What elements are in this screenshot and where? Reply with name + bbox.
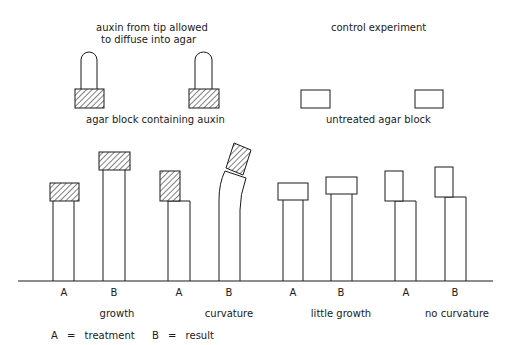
legend-b-key: B (152, 330, 159, 341)
plant-7 (385, 171, 416, 281)
plant-7-letter: A (403, 287, 410, 299)
auxin-agar-block (99, 152, 130, 170)
stem (331, 194, 352, 281)
auxin-agar-block-1 (75, 89, 104, 108)
plant-1-letter: A (61, 287, 68, 299)
auxin-agar-block (160, 171, 180, 201)
stem (445, 197, 466, 281)
auxin-agar-block-2 (189, 89, 219, 108)
untreated-agar-block (385, 171, 403, 201)
plant-3-letter: A (176, 287, 183, 299)
legend-b-value: result (186, 330, 214, 341)
stem (395, 201, 416, 281)
untreated-agar-block (326, 177, 357, 194)
plant-1 (50, 183, 79, 281)
plant-8-letter: B (452, 287, 459, 299)
plant-8 (435, 167, 466, 281)
plant-2-letter: B (111, 287, 118, 299)
tilted-auxin-agar-block (226, 143, 251, 175)
stem (103, 170, 125, 281)
plant-3 (160, 171, 190, 281)
plant-5 (278, 183, 308, 281)
untreated-agar-block (278, 183, 308, 200)
untreated-agar-block-2 (415, 90, 443, 108)
auxin-caption-line1: auxin from tip allowed (96, 22, 208, 34)
plant-4-letter: B (226, 287, 233, 299)
auxin-agar-block (50, 183, 79, 201)
stem (53, 201, 74, 281)
tip-on-agar-2 (189, 52, 219, 108)
stem (168, 201, 190, 281)
untreated-agar-block-1 (301, 90, 330, 108)
untreated-agar-block (435, 167, 453, 197)
plant-4 (219, 143, 251, 281)
coleoptile-tip-2 (195, 52, 212, 89)
agar-with-auxin-label: agar block containing auxin (86, 114, 225, 126)
legend: A = treatment B = result (51, 330, 214, 342)
stem (283, 200, 303, 281)
plant-6 (326, 177, 357, 281)
legend-b-eq: = (168, 330, 176, 341)
legend-a-key: A (51, 330, 58, 341)
auxin-experiment-diagram (0, 0, 510, 345)
auxin-caption-line2: to diffuse into agar (101, 34, 196, 46)
plant-2 (99, 152, 130, 281)
legend-a-value: treatment (85, 330, 135, 341)
untreated-agar-label: untreated agar block (326, 114, 431, 126)
result-little-growth: little growth (311, 308, 371, 320)
coleoptile-tip-1 (81, 52, 97, 89)
tip-on-agar-1 (75, 52, 104, 108)
result-curvature: curvature (205, 308, 253, 320)
control-caption: control experiment (331, 22, 426, 34)
legend-a-eq: = (67, 330, 75, 341)
plant-6-letter: B (338, 287, 345, 299)
curved-stem (219, 171, 246, 281)
plant-5-letter: A (290, 287, 297, 299)
result-no-curvature: no curvature (425, 308, 489, 320)
result-growth: growth (100, 308, 135, 320)
